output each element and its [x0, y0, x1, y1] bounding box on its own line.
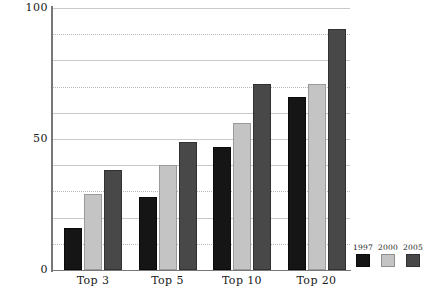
bar-1997-top-10 — [213, 147, 231, 270]
x-axis-tick-label: Top 10 — [222, 275, 262, 287]
bar-2000-top-10 — [233, 123, 251, 270]
bar-2005-top-10 — [253, 84, 271, 270]
bar-1997-top-20 — [288, 97, 306, 270]
y-axis-tick-label: 0 — [8, 264, 48, 275]
x-axis-tick-label: Top 5 — [151, 275, 184, 287]
y-axis-tick-labels: 100500 — [0, 0, 48, 302]
legend-swatch-1997 — [356, 254, 370, 267]
x-axis-tick-label: Top 3 — [77, 275, 110, 287]
legend-entry-1997: 1997 — [352, 243, 374, 267]
plot-area — [52, 8, 350, 270]
bar-2005-top-5 — [179, 142, 197, 270]
legend-label: 2000 — [377, 243, 399, 252]
bar-2005-top-3 — [104, 170, 122, 270]
legend-entry-2005: 2005 — [402, 243, 424, 267]
bar-2000-top-5 — [159, 165, 177, 270]
legend-swatch-2005 — [406, 254, 420, 267]
legend-label: 2005 — [402, 243, 424, 252]
legend-swatch-2000 — [381, 254, 395, 267]
x-axis-line — [51, 270, 351, 271]
legend-label: 1997 — [352, 243, 374, 252]
y-axis-tick-label: 50 — [8, 133, 48, 144]
bar-2000-top-3 — [84, 194, 102, 270]
bar-2005-top-20 — [328, 29, 346, 270]
bar-chart: 100500 Top 3Top 5Top 10Top 20 1997200020… — [0, 0, 428, 302]
bar-2000-top-20 — [308, 84, 326, 270]
y-axis-line — [51, 6, 53, 272]
legend-entry-2000: 2000 — [377, 243, 399, 267]
bar-1997-top-5 — [139, 197, 157, 270]
x-axis-tick-label: Top 20 — [296, 275, 336, 287]
bar-1997-top-3 — [64, 228, 82, 270]
y-axis-tick-label: 100 — [8, 2, 48, 13]
chart-legend: 199720002005 — [352, 243, 426, 275]
bars-layer — [52, 8, 350, 270]
